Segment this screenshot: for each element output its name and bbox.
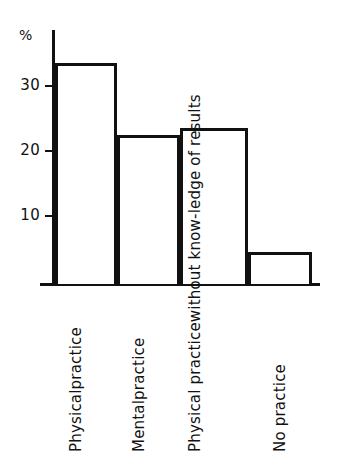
category-label-line: practice: [67, 327, 86, 389]
bar-physical-practice: [55, 63, 117, 284]
bar-chart-figure: % 30 20 10 Physicalpractice Mentalpracti…: [0, 0, 349, 458]
category-label-line: ledge of results: [186, 94, 205, 213]
y-tick-label-30: 30: [20, 78, 40, 93]
y-tick-mark-30: [45, 85, 53, 87]
category-label-line: practice: [130, 338, 149, 400]
category-label-mental-practice: Mentalpractice: [130, 292, 149, 452]
bar-mental-practice: [117, 135, 180, 285]
category-label-line: Physical: [67, 389, 86, 452]
category-label-line: without know-: [186, 213, 205, 322]
category-label-line: Mental: [130, 400, 149, 452]
category-label-line: No practice: [271, 364, 290, 452]
bar-no-practice: [248, 252, 312, 285]
category-label-no-practice: No practice: [271, 292, 290, 452]
y-tick-mark-10: [45, 215, 53, 217]
y-tick-mark-20: [45, 150, 53, 152]
y-axis-unit-label: %: [19, 28, 33, 42]
category-label-line: Physical practice: [186, 322, 205, 452]
y-tick-label-20: 20: [20, 143, 40, 158]
category-label-physical-practice: Physicalpractice: [67, 292, 86, 452]
y-tick-label-10: 10: [20, 208, 40, 223]
category-label-physical-practice-without-knowledge-of-results: Physical practicewithout know-ledge of r…: [186, 292, 205, 452]
